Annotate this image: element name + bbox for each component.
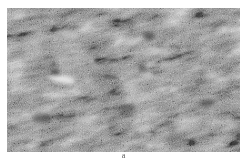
surface-texture [7, 8, 240, 152]
figure-caption: a [0, 151, 247, 161]
figure: a [0, 0, 247, 162]
micrograph-image [7, 8, 240, 152]
